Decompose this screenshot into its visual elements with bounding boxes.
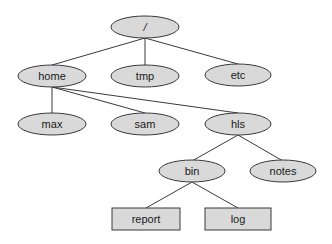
node-label-hls: hls [231, 118, 246, 130]
node-label-home: home [38, 70, 66, 82]
node-label-notes: notes [270, 165, 297, 177]
edge-home-sam [52, 87, 145, 113]
node-report: report [112, 208, 180, 230]
directory-tree-diagram: / home tmp etc max sam hls bin notes rep… [0, 0, 332, 244]
edge-hls-notes [238, 135, 283, 161]
node-hls: hls [205, 113, 271, 135]
edge-bin-log [192, 182, 238, 208]
node-notes: notes [250, 160, 316, 182]
node-bin: bin [159, 160, 225, 182]
edge-bin-report [146, 182, 192, 208]
edge-root-home [52, 38, 145, 65]
edge-hls-bin [192, 135, 238, 161]
node-sam: sam [111, 113, 179, 135]
node-tmp: tmp [111, 65, 179, 87]
node-home: home [18, 65, 86, 87]
node-label-tmp: tmp [136, 70, 154, 82]
node-etc: etc [205, 64, 271, 86]
edge-home-hls [52, 87, 238, 113]
edge-root-etc [145, 38, 238, 64]
node-label-etc: etc [231, 69, 246, 81]
node-max: max [18, 113, 86, 135]
node-label-sam: sam [135, 118, 156, 130]
node-root: / [111, 16, 179, 38]
node-label-bin: bin [185, 165, 200, 177]
node-log: log [205, 208, 271, 230]
node-label-report: report [132, 213, 161, 225]
node-label-max: max [42, 118, 63, 130]
node-label-log: log [231, 213, 246, 225]
